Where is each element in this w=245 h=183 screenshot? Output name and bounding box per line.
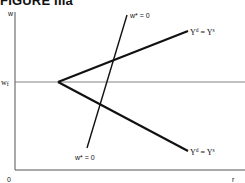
yd-ys-lower-line	[58, 82, 188, 151]
wstar-bottom-label: w* = 0	[74, 154, 95, 161]
diagram-canvas: w r 0 wf w* = 0 w* = 0 Yd = Ys Yd = Ys	[0, 0, 245, 183]
yd-ys-bottom-label: Yd = Ys	[190, 147, 215, 157]
yd-ys-top-label: Yd = Ys	[190, 27, 215, 37]
y-axis-label: w	[7, 10, 14, 17]
x-axis-label: r	[232, 176, 235, 183]
wf-label: wf	[1, 78, 9, 87]
wstar-line	[87, 15, 127, 148]
wstar-top-label: w* = 0	[129, 12, 150, 19]
yd-ys-upper-line	[58, 31, 188, 82]
origin-label: 0	[7, 176, 11, 183]
